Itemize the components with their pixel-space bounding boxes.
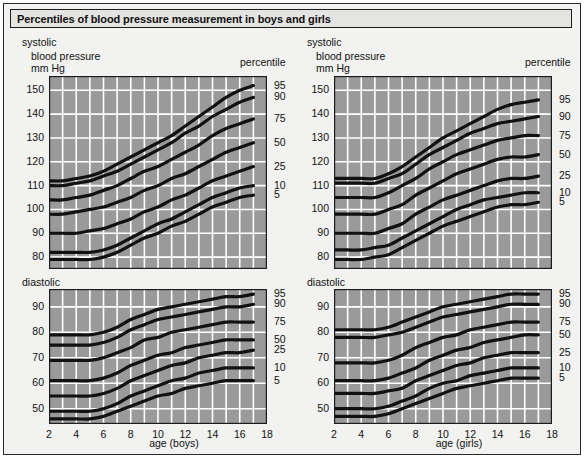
ytick-label: 140 [17, 107, 44, 119]
percentile-label-90: 90 [559, 110, 571, 122]
ytick-label: 120 [17, 155, 44, 167]
ytick-label: 150 [302, 83, 329, 95]
plot-area-diastolic-boys [49, 289, 267, 424]
ytick-label: 80 [302, 325, 329, 337]
percentile-label-90: 90 [274, 90, 286, 102]
systolic-girls-unit-line2: mm Hg [316, 62, 350, 74]
ytick-label: 50 [302, 402, 329, 414]
percentile-label-25: 25 [274, 343, 286, 355]
xtick-label: 16 [228, 428, 252, 440]
xtick-label: 2 [322, 428, 346, 440]
ytick-label: 140 [302, 107, 329, 119]
systolic-girls-percentile-heading: percentile [525, 56, 571, 68]
figure-title: Percentiles of blood pressure measuremen… [11, 13, 331, 25]
ytick-label: 100 [302, 202, 329, 214]
ytick-label: 110 [17, 179, 44, 191]
percentile-label-75: 75 [559, 129, 571, 141]
percentile-label-5: 5 [559, 371, 565, 383]
ytick-label: 80 [302, 250, 329, 262]
xtick-label: 18 [255, 428, 279, 440]
xtick-label: 14 [201, 428, 225, 440]
systolic-girls-unit-line1: blood pressure [316, 50, 385, 62]
ytick-label: 150 [17, 83, 44, 95]
percentile-label-25: 25 [559, 169, 571, 181]
diastolic-girls-heading: diastolic [307, 276, 345, 288]
percentile-label-75: 75 [559, 315, 571, 327]
xtick-label: 6 [377, 428, 401, 440]
ytick-label: 60 [302, 376, 329, 388]
ytick-label: 130 [17, 131, 44, 143]
systolic-boys-percentile-heading: percentile [240, 56, 286, 68]
systolic-girls-heading: systolic [307, 36, 341, 48]
xtick-label: 4 [349, 428, 373, 440]
percentile-label-10: 10 [274, 361, 286, 373]
systolic-boys-unit-line1: blood pressure [31, 50, 100, 62]
ytick-label: 130 [302, 131, 329, 143]
ytick-label: 60 [17, 376, 44, 388]
systolic-boys-heading: systolic [22, 36, 56, 48]
percentile-label-25: 25 [559, 346, 571, 358]
xtick-label: 10 [146, 428, 170, 440]
ytick-label: 90 [302, 226, 329, 238]
percentile-label-25: 25 [274, 160, 286, 172]
percentile-label-50: 50 [274, 136, 286, 148]
figure-container: Percentiles of blood pressure measuremen… [3, 3, 581, 455]
percentile-label-95: 95 [559, 93, 571, 105]
xtick-label: 12 [173, 428, 197, 440]
ytick-label: 110 [302, 179, 329, 191]
ytick-label: 50 [17, 402, 44, 414]
percentile-label-5: 5 [274, 374, 280, 386]
percentile-label-75: 75 [274, 112, 286, 124]
plot-area-systolic-boys [49, 76, 267, 269]
percentile-label-50: 50 [559, 148, 571, 160]
percentile-label-5: 5 [274, 188, 280, 200]
xtick-label: 4 [64, 428, 88, 440]
systolic-boys-unit-line2: mm Hg [31, 62, 65, 74]
xtick-label: 8 [404, 428, 428, 440]
ytick-label: 70 [302, 351, 329, 363]
percentile-label-75: 75 [274, 315, 286, 327]
ytick-label: 90 [302, 300, 329, 312]
xtick-label: 16 [513, 428, 537, 440]
ytick-label: 90 [17, 226, 44, 238]
ytick-label: 100 [17, 202, 44, 214]
percentile-label-95: 95 [274, 79, 286, 91]
xtick-label: 10 [431, 428, 455, 440]
xtick-label: 6 [92, 428, 116, 440]
ytick-label: 70 [17, 351, 44, 363]
xtick-label: 8 [119, 428, 143, 440]
xtick-label: 18 [540, 428, 564, 440]
percentile-label-5: 5 [559, 195, 565, 207]
plot-area-diastolic-girls [334, 289, 552, 424]
ytick-label: 120 [302, 155, 329, 167]
percentile-label-90: 90 [274, 297, 286, 309]
percentile-label-50: 50 [559, 328, 571, 340]
diastolic-boys-heading: diastolic [22, 276, 60, 288]
xtick-label: 12 [458, 428, 482, 440]
figure-title-bar: Percentiles of blood pressure measuremen… [10, 9, 572, 28]
ytick-label: 90 [17, 300, 44, 312]
xtick-label: 14 [486, 428, 510, 440]
plot-area-systolic-girls [334, 76, 552, 269]
xtick-label: 2 [37, 428, 61, 440]
ytick-label: 80 [17, 250, 44, 262]
ytick-label: 80 [17, 325, 44, 337]
percentile-label-90: 90 [559, 297, 571, 309]
